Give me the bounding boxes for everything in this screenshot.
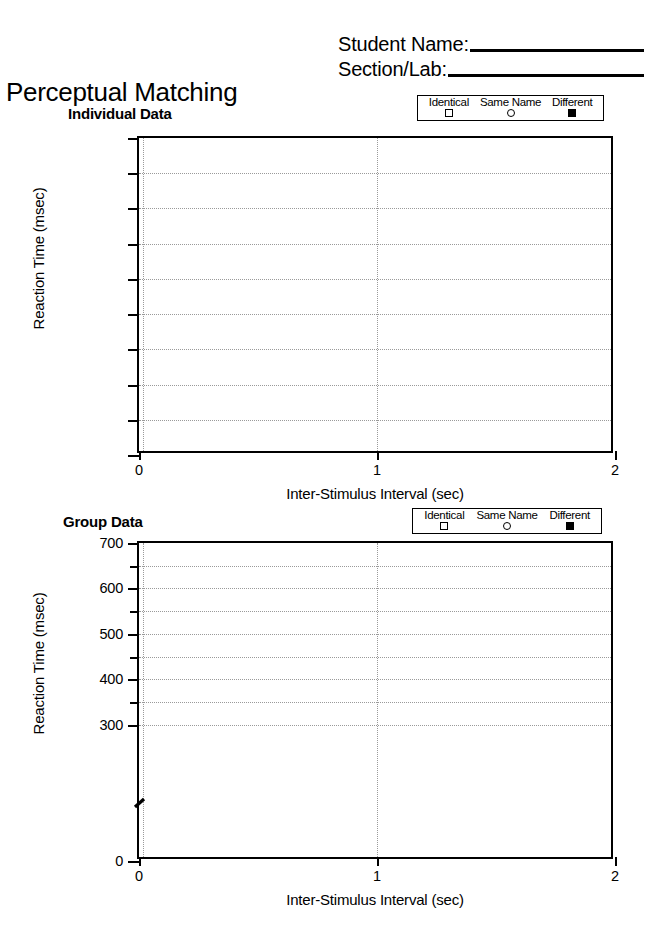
x-axis-tick-label: 2 — [611, 462, 619, 478]
horizontal-gridline — [139, 279, 611, 280]
y-axis-tick-label: 300 — [99, 717, 123, 733]
section-lab-label: Section/Lab: — [338, 58, 447, 80]
y-axis-tick — [128, 314, 139, 316]
horizontal-gridline — [139, 725, 611, 726]
horizontal-gridline — [139, 611, 611, 612]
legend-label-different: Different — [549, 509, 590, 522]
page-title: Perceptual Matching — [6, 77, 237, 107]
x-axis-title-group: Inter-Stimulus Interval (sec) — [137, 891, 613, 908]
chart-individual-data: Reaction Time (msec) 012 Inter-Stimulus … — [0, 120, 652, 500]
legend-label-same-name: Same Name — [476, 509, 537, 522]
axis-break-icon — [133, 797, 146, 810]
student-name-row: Student Name: — [338, 30, 644, 55]
x-axis-tick — [139, 857, 141, 866]
horizontal-gridline — [139, 244, 611, 245]
y-axis-tick-label: 400 — [99, 671, 123, 687]
y-axis-tick — [128, 420, 139, 422]
vertical-gridline — [143, 138, 144, 451]
y-axis-tick — [128, 279, 139, 281]
circle-open-marker-icon — [507, 109, 515, 117]
x-axis-tick — [377, 857, 379, 866]
y-axis-title-individual: Reaction Time (msec) — [30, 174, 47, 344]
student-name-fill-line[interactable] — [470, 49, 644, 52]
chart-group-data: Reaction Time (msec) 0300400500600700012… — [0, 525, 652, 905]
x-axis-tick-label: 1 — [373, 462, 381, 478]
horizontal-gridline — [139, 385, 611, 386]
legend-item-same-name: Same Name — [480, 96, 542, 120]
y-axis-tick — [128, 679, 139, 681]
horizontal-gridline — [139, 349, 611, 350]
x-axis-tick-label: 2 — [611, 868, 619, 884]
y-axis-tick — [128, 349, 139, 351]
legend-label-identical: Identical — [429, 96, 469, 109]
y-axis-tick — [128, 861, 139, 863]
student-info-block: Student Name: Section/Lab: — [338, 30, 644, 80]
horizontal-gridline — [139, 566, 611, 567]
section-lab-row: Section/Lab: — [338, 55, 644, 80]
y-axis-title-group: Reaction Time (msec) — [30, 579, 47, 749]
y-axis-tick — [128, 543, 139, 545]
x-axis-tick — [615, 451, 617, 460]
horizontal-gridline — [139, 173, 611, 174]
y-axis-tick-label: 0 — [115, 853, 123, 869]
y-axis-tick — [128, 244, 139, 246]
y-axis-tick — [128, 138, 139, 140]
vertical-gridline — [377, 543, 378, 857]
student-name-label: Student Name: — [338, 33, 469, 55]
y-axis-tick — [128, 385, 139, 387]
x-axis-tick — [139, 451, 141, 460]
horizontal-gridline — [139, 588, 611, 589]
horizontal-gridline — [139, 314, 611, 315]
horizontal-gridline — [139, 679, 611, 680]
gridlines-group — [139, 543, 611, 857]
y-axis-tick — [130, 566, 139, 568]
y-axis-tick — [128, 455, 139, 457]
x-axis-title-individual: Inter-Stimulus Interval (sec) — [137, 485, 613, 502]
y-axis-tick-label: 600 — [99, 580, 123, 596]
horizontal-gridline — [139, 634, 611, 635]
y-axis-tick — [128, 173, 139, 175]
y-axis-tick — [128, 634, 139, 636]
legend-item-identical: Identical — [418, 96, 480, 120]
x-axis-tick — [615, 857, 617, 866]
horizontal-gridline — [139, 420, 611, 421]
x-axis-tick-label: 0 — [135, 462, 143, 478]
y-axis-tick — [128, 208, 139, 210]
legend-label-different: Different — [552, 96, 593, 109]
gridlines-individual — [139, 138, 611, 451]
y-axis-tick — [128, 588, 139, 590]
horizontal-gridline — [139, 208, 611, 209]
y-axis-tick — [130, 657, 139, 659]
vertical-gridline — [377, 138, 378, 451]
y-axis-tick — [128, 725, 139, 727]
legend-individual: Identical Same Name Different — [417, 95, 604, 121]
legend-item-different: Different — [541, 96, 603, 120]
y-axis-tick — [130, 702, 139, 704]
x-axis-tick-label: 0 — [135, 868, 143, 884]
y-axis-tick-label: 500 — [99, 626, 123, 642]
y-axis-tick — [130, 611, 139, 613]
plot-area-group[interactable]: 0300400500600700012 — [137, 541, 613, 859]
horizontal-gridline — [139, 702, 611, 703]
x-axis-tick-label: 1 — [373, 868, 381, 884]
legend-label-identical: Identical — [424, 509, 464, 522]
square-open-marker-icon — [445, 109, 453, 117]
x-axis-tick — [377, 451, 379, 460]
square-filled-marker-icon — [568, 109, 576, 117]
legend-label-same-name: Same Name — [480, 96, 541, 109]
horizontal-gridline — [139, 657, 611, 658]
plot-area-individual[interactable]: 012 — [137, 136, 613, 453]
section-lab-fill-line[interactable] — [448, 74, 644, 77]
y-axis-tick-label: 700 — [99, 535, 123, 551]
